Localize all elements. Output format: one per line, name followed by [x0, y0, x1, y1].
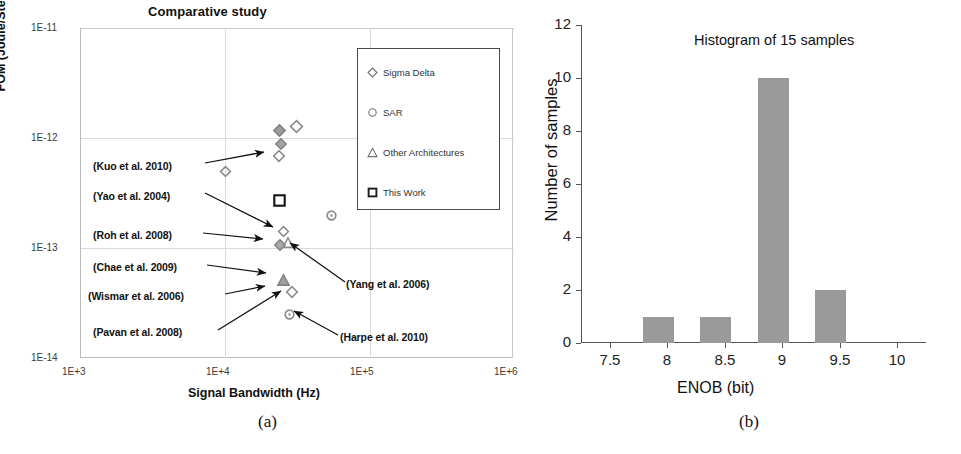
legend-label-this-work: This Work	[383, 187, 426, 198]
frame-right-a	[512, 28, 513, 358]
x-tickmark-b-9p5	[840, 343, 841, 348]
histogram-bar	[815, 290, 846, 343]
x-tick-a-1: 1E+4	[206, 366, 230, 377]
x-axis-label-a: Signal Bandwidth (Hz)	[188, 386, 320, 400]
annotation-kuo: (Kuo et al. 2010)	[93, 160, 172, 172]
y-tick-b-12: 12	[537, 15, 571, 32]
data-point-sigma-delta	[220, 166, 231, 177]
data-point-other-architecture	[282, 237, 294, 248]
data-point-sigma-delta	[278, 226, 289, 237]
data-point-this-work	[273, 194, 286, 207]
legend-item-other-architectures: Other Architectures	[367, 147, 464, 158]
data-point-sigma-delta	[286, 286, 298, 298]
legend-item-sigma-delta: Sigma Delta	[367, 67, 435, 78]
y-tick-a-0: 1E-11	[31, 22, 57, 33]
x-tick-a-3: 1E+6	[494, 366, 518, 377]
data-point-sigma-delta	[290, 120, 303, 133]
y-tickmark-b-6	[576, 184, 581, 185]
y-axis-line-b	[581, 25, 582, 343]
x-tick-b-0: 7.5	[580, 351, 640, 368]
x-tick-a-0: 1E+3	[62, 366, 86, 377]
y-tick-b-4: 4	[541, 227, 571, 244]
y-tick-a-1: 1E-12	[31, 132, 58, 143]
triangle-icon	[367, 147, 378, 158]
annotation-yao: (Yao et al. 2004)	[93, 190, 170, 202]
data-point-other-architecture	[277, 274, 290, 286]
x-tickmark-b-10	[897, 343, 898, 348]
x-axis-label-b: ENOB (bit)	[677, 379, 754, 397]
y-axis-label-b: Number of samples	[542, 0, 561, 300]
y-tick-a-2: 1E-13	[31, 242, 58, 253]
y-tickmark-b-12	[576, 25, 581, 26]
legend-label-sar: SAR	[383, 107, 403, 118]
x-tick-a-2: 1E+5	[350, 366, 374, 377]
annotation-harpe: (Harpe et al. 2010)	[340, 331, 428, 343]
x-tick-b-3: 9	[752, 351, 812, 368]
annotation-chae: (Chae et al. 2009)	[93, 261, 177, 273]
y-tick-b-0: 0	[541, 333, 571, 350]
y-tickmark-b-0	[576, 343, 581, 344]
y-tickmark-b-4	[576, 237, 581, 238]
panel-b-histogram: Histogram of 15 samples Number of sample…	[520, 0, 961, 454]
data-point-sigma-delta	[273, 150, 285, 162]
y-tick-b-6: 6	[541, 174, 571, 191]
frame-top-a	[81, 28, 514, 29]
y-tick-b-2: 2	[541, 280, 571, 297]
x-tickmark-b-8	[667, 343, 668, 348]
y-tick-a-3: 1E-14	[31, 352, 58, 363]
gridline-h-1e-13	[81, 248, 514, 249]
legend-label-sigma-delta: Sigma Delta	[383, 67, 435, 78]
legend-label-other-architectures: Other Architectures	[383, 147, 464, 158]
data-point-sigma-delta	[275, 138, 287, 150]
figure-root: Comparative study FOM (Joule/Step) 1E-11…	[0, 0, 961, 454]
y-tickmark-b-2	[576, 290, 581, 291]
data-point-sar	[284, 309, 295, 320]
x-tickmark-b-7p5	[610, 343, 611, 348]
data-point-sar	[326, 210, 337, 221]
data-point-sigma-delta	[273, 124, 286, 137]
x-tick-b-2: 8.5	[695, 351, 755, 368]
y-tickmark-b-10	[576, 78, 581, 79]
x-tickmark-b-9	[782, 343, 783, 348]
panel-caption-b: (b)	[739, 412, 759, 432]
legend-item-sar: SAR	[367, 107, 403, 118]
legend-a: Sigma Delta SAR Other Architectures This…	[357, 48, 500, 210]
circle-icon	[367, 107, 378, 118]
y-tickmark-b-8	[576, 131, 581, 132]
annotation-roh: (Roh et al. 2008)	[93, 229, 172, 241]
legend-item-this-work: This Work	[367, 187, 426, 198]
y-axis-label-a: FOM (Joule/Step)	[0, 0, 8, 120]
histogram-bar	[758, 78, 789, 343]
panel-caption-a: (a)	[258, 412, 277, 432]
panel-a-comparative-study: Comparative study FOM (Joule/Step) 1E-11…	[0, 0, 520, 454]
chart-title-a: Comparative study	[148, 4, 267, 19]
annotation-yang: (Yang et al. 2006)	[346, 278, 429, 290]
histogram-bar	[643, 317, 674, 344]
y-tick-b-10: 10	[537, 68, 571, 85]
plot-area-b: 0 2 4 6 8 10 12 7.5 8 8.5 9 9.5 10	[581, 25, 926, 343]
x-tick-b-4: 9.5	[810, 351, 870, 368]
x-axis-line-b	[581, 342, 926, 343]
square-icon	[367, 187, 378, 198]
histogram-bar	[700, 317, 731, 344]
x-tickmark-b-8p5	[725, 343, 726, 348]
annotation-wismar: (Wismar et al. 2006)	[88, 290, 184, 302]
x-tick-b-5: 10	[867, 351, 927, 368]
diamond-icon	[367, 67, 378, 78]
annotation-pavan: (Pavan et al. 2008)	[93, 326, 182, 338]
gridline-v-1e4	[225, 28, 226, 358]
y-tick-b-8: 8	[541, 121, 571, 138]
x-tick-b-1: 8	[637, 351, 697, 368]
